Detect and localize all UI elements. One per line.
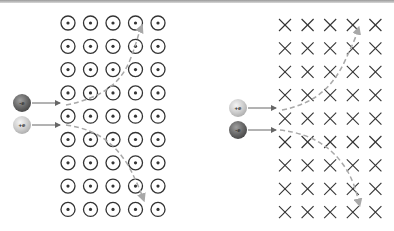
- field-out-of-page-symbol: [129, 202, 143, 216]
- field-out-of-page-symbol: [151, 156, 165, 170]
- particle-positive-right: +e: [229, 99, 247, 117]
- particle-negative-left: -e: [13, 94, 31, 112]
- field-out-of-page-symbol: [129, 109, 143, 123]
- field-into-page-symbol: [347, 89, 359, 101]
- field-into-page-symbol: [279, 113, 291, 125]
- field-into-page-symbol: [302, 89, 314, 101]
- field-into-page-symbol: [347, 66, 359, 78]
- field-out-of-page-symbol: [106, 179, 120, 193]
- field-into-page-symbol: [369, 66, 381, 78]
- field-into-page-symbol: [369, 136, 381, 148]
- field-into-page-symbol: [279, 42, 291, 54]
- field-out-of-page-symbol: [61, 156, 75, 170]
- field-out-of-page-symbol: [151, 179, 165, 193]
- field-out-of-page-symbol: [61, 86, 75, 100]
- field-into-page-symbol: [347, 159, 359, 171]
- field-into-page-symbol: [302, 42, 314, 54]
- field-into-page-symbol: [347, 113, 359, 125]
- field-into-page-symbol: [279, 66, 291, 78]
- field-into-page-symbol: [347, 19, 359, 31]
- field-into-page-symbol: [302, 66, 314, 78]
- field-into-page-symbol: [369, 19, 381, 31]
- particle-label: -e: [235, 127, 241, 133]
- field-out-of-page-symbol: [151, 109, 165, 123]
- field-into-page-symbol: [324, 19, 336, 31]
- trajectory-positive-left: [66, 125, 143, 198]
- field-into-page-symbol: [302, 206, 314, 218]
- particle-label: +e: [235, 105, 243, 111]
- field-into-page-symbol: [279, 183, 291, 195]
- field-into-page-symbol: [324, 42, 336, 54]
- field-into-page-symbol: [347, 206, 359, 218]
- field-out-of-page-symbol: [106, 63, 120, 77]
- field-out-of-page-symbol: [84, 133, 98, 147]
- magnetic-deflection-diagram: -e +e +e -e: [0, 0, 394, 231]
- field-into-page-symbol: [324, 89, 336, 101]
- field-into-page-symbol: [324, 206, 336, 218]
- field-out-of-page-symbol: [61, 63, 75, 77]
- field-out-of-page-symbol: [61, 39, 75, 53]
- field-into-page-symbol: [279, 159, 291, 171]
- field-into-page-symbol: [302, 159, 314, 171]
- field-into-page-symbol: [369, 89, 381, 101]
- field-out-of-page-symbol: [151, 133, 165, 147]
- field-out-of-page-symbol: [61, 16, 75, 30]
- field-into-page-symbol: [324, 183, 336, 195]
- trajectory-negative-right: [280, 130, 359, 203]
- field-into-page-symbol: [369, 206, 381, 218]
- field-into-page-symbol: [369, 183, 381, 195]
- field-out-of-page-symbol: [106, 133, 120, 147]
- field-out-of-page-grid: [61, 16, 165, 216]
- field-out-of-page-symbol: [106, 39, 120, 53]
- field-into-page-symbol: [279, 206, 291, 218]
- field-into-page-symbol: [302, 19, 314, 31]
- field-into-page-symbol: [279, 136, 291, 148]
- field-out-of-page-symbol: [151, 202, 165, 216]
- field-into-page-symbol: [279, 89, 291, 101]
- field-out-of-page-symbol: [129, 156, 143, 170]
- field-out-of-page-symbol: [84, 39, 98, 53]
- field-out-of-page-symbol: [84, 202, 98, 216]
- field-out-of-page-symbol: [129, 133, 143, 147]
- field-out-of-page-symbol: [106, 202, 120, 216]
- field-into-page-symbol: [369, 42, 381, 54]
- field-out-of-page-symbol: [151, 39, 165, 53]
- field-into-page-symbol: [369, 159, 381, 171]
- field-out-of-page-symbol: [151, 86, 165, 100]
- field-into-page-symbol: [324, 66, 336, 78]
- field-out-of-page-symbol: [84, 16, 98, 30]
- field-out-of-page-symbol: [61, 179, 75, 193]
- field-out-of-page-symbol: [129, 86, 143, 100]
- field-out-of-page-symbol: [106, 16, 120, 30]
- particle-label: -e: [19, 100, 25, 106]
- field-out-of-page-symbol: [106, 109, 120, 123]
- field-out-of-page-symbol: [84, 156, 98, 170]
- field-out-of-page-symbol: [129, 63, 143, 77]
- field-out-of-page-symbol: [106, 156, 120, 170]
- field-out-of-page-symbol: [106, 86, 120, 100]
- field-into-page-symbol: [347, 136, 359, 148]
- field-out-of-page-symbol: [61, 202, 75, 216]
- field-out-of-page-symbol: [151, 63, 165, 77]
- field-into-page-symbol: [324, 113, 336, 125]
- field-into-page-symbol: [369, 113, 381, 125]
- particle-negative-right: -e: [229, 121, 247, 139]
- field-into-page-symbol: [279, 19, 291, 31]
- field-out-of-page-symbol: [61, 133, 75, 147]
- trajectory-positive-right: [282, 30, 358, 110]
- particle-label: +e: [19, 122, 27, 128]
- field-into-page-symbol: [302, 113, 314, 125]
- field-into-page-symbol: [302, 183, 314, 195]
- field-out-of-page-symbol: [151, 16, 165, 30]
- field-into-page-grid: [279, 19, 381, 218]
- field-out-of-page-symbol: [84, 63, 98, 77]
- field-into-page-symbol: [324, 159, 336, 171]
- field-out-of-page-symbol: [61, 109, 75, 123]
- field-out-of-page-symbol: [84, 179, 98, 193]
- field-out-of-page-symbol: [84, 109, 98, 123]
- particle-positive-left: +e: [13, 116, 31, 134]
